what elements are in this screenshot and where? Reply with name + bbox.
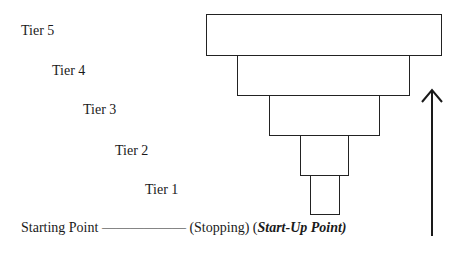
tier-5-box [206,14,442,56]
starting-point-text: Starting Point [21,220,98,235]
tier-3-label: Tier 3 [83,102,116,118]
startup-point-text: Start-Up Point) [257,220,346,235]
tier-2-box [300,135,349,176]
tier-4-box [237,55,410,96]
tier-1-label: Tier 1 [145,182,178,198]
tier-2-label: Tier 2 [115,143,148,159]
dash-line: —————— [102,220,186,235]
tier-5-label: Tier 5 [21,23,54,39]
up-arrow-icon [420,86,446,238]
stopping-text: (Stopping) [189,220,249,235]
starting-point-caption: Starting Point —————— (Stopping) (Start-… [21,220,347,236]
tier-3-box [269,95,380,136]
tier-4-label: Tier 4 [52,63,85,79]
tier-1-box [310,175,340,215]
